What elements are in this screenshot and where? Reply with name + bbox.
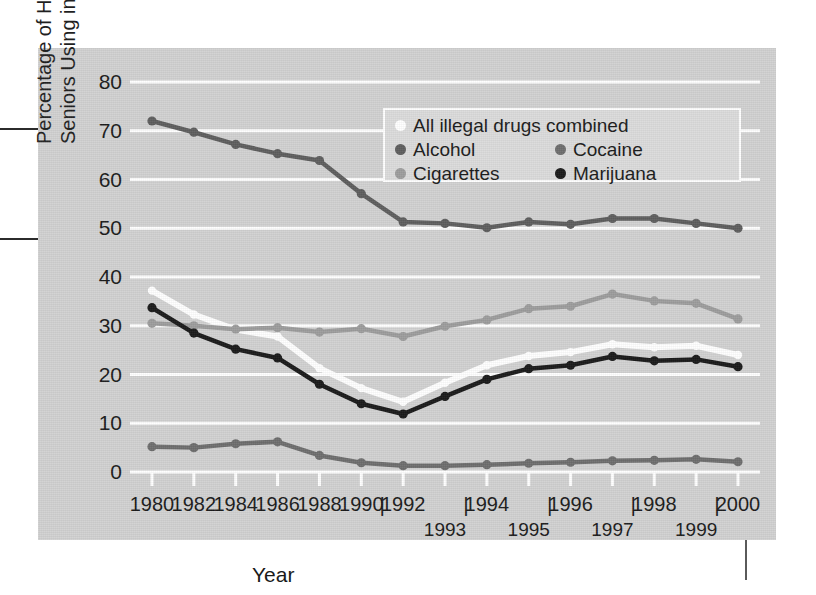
- legend-row: All illegal drugs combined: [395, 113, 731, 137]
- x-tick-label: 1986: [255, 494, 300, 514]
- y-tick-label: 70: [78, 120, 122, 141]
- x-tick-label-lower: 1997: [591, 520, 633, 540]
- legend-item[interactable]: Alcohol: [395, 140, 537, 159]
- y-axis-title: Percentage of High School Seniors Using …: [32, 0, 80, 144]
- x-tick-separator: |: [631, 494, 636, 515]
- x-axis-title: Year: [252, 564, 294, 585]
- legend-row: AlcoholCocaine: [395, 137, 731, 161]
- legend-row: CigarettesMarijuana: [395, 161, 731, 185]
- x-tick-label: 1998: [632, 494, 677, 514]
- x-tick-label: 1980: [130, 494, 175, 514]
- x-tick-label: 1988: [297, 494, 342, 514]
- x-tick-label: 1982: [172, 494, 217, 514]
- legend-marker-icon: [555, 144, 566, 155]
- x-tick-label-lower: 1995: [508, 520, 550, 540]
- legend-label: Cigarettes: [413, 164, 500, 183]
- x-tick-label: 1984: [213, 494, 258, 514]
- legend-marker-icon: [395, 120, 406, 131]
- x-tick-separator: |: [463, 494, 468, 515]
- legend-item[interactable]: Marijuana: [555, 164, 656, 183]
- y-tick-label: 10: [78, 412, 122, 433]
- x-tick-label: 1992: [381, 494, 426, 514]
- legend-item[interactable]: Cigarettes: [395, 164, 537, 183]
- x-tick-label: 2000: [716, 494, 761, 514]
- y-axis-title-line2: Seniors Using in Past Month: [56, 0, 80, 144]
- y-tick-label: 0: [78, 461, 122, 482]
- legend-marker-icon: [395, 144, 406, 155]
- legend-label: Alcohol: [413, 140, 475, 159]
- legend-marker-icon: [395, 168, 406, 179]
- y-tick-label: 40: [78, 266, 122, 287]
- legend-label: Marijuana: [573, 164, 656, 183]
- y-tick-label: 30: [78, 315, 122, 336]
- chart-legend: All illegal drugs combinedAlcoholCocaine…: [383, 108, 741, 182]
- x-tick-separator: |: [547, 494, 552, 515]
- y-tick-label: 60: [78, 169, 122, 190]
- y-axis-title-line1: Percentage of High School: [32, 0, 56, 144]
- legend-item[interactable]: All illegal drugs combined: [395, 116, 628, 135]
- x-tick-label: 1994: [465, 494, 510, 514]
- y-tick-label: 50: [78, 217, 122, 238]
- x-tick-label-lower: 1993: [424, 520, 466, 540]
- legend-marker-icon: [555, 168, 566, 179]
- legend-item[interactable]: Cocaine: [555, 140, 643, 159]
- x-tick-label: 1990: [339, 494, 384, 514]
- chart-panel: Percentage of High School Seniors Using …: [38, 48, 776, 540]
- x-tick-separator: |: [379, 494, 384, 515]
- legend-label: Cocaine: [573, 140, 643, 159]
- figure-root: Percentage of High School Seniors Using …: [0, 0, 816, 595]
- x-tick-label: 1996: [548, 494, 593, 514]
- y-tick-label: 20: [78, 364, 122, 385]
- page-edge-tick: [745, 538, 747, 580]
- x-tick-separator: |: [714, 494, 719, 515]
- y-tick-label: 80: [78, 71, 122, 92]
- legend-label: All illegal drugs combined: [413, 116, 628, 135]
- x-tick-label-lower: 1999: [675, 520, 717, 540]
